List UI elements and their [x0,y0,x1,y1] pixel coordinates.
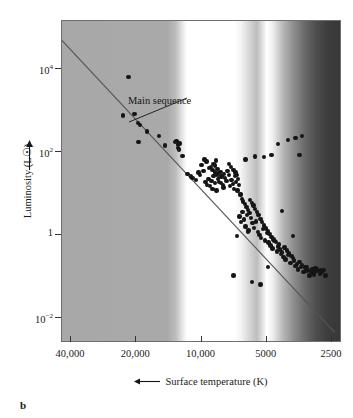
x-axis-tick-mark [266,336,267,342]
y-tick-exponent: 4 [50,63,54,71]
y-axis-tick-label: 1 [48,228,53,238]
y-axis-tick-label: 104 [39,62,53,76]
x-axis-tick-mark [135,336,136,342]
y-axis-title: Luminosity (L☉) [21,106,33,256]
x-axis-arrow-left [134,377,160,386]
y-axis-tick-mark [55,234,61,235]
y-axis-tick-label: 102 [39,145,53,159]
x-axis-tick-label: 40,000 [56,348,85,360]
y-axis-tick-mark [55,68,61,69]
y-tick-mantissa: 10 [39,64,50,75]
y-axis-title-text: Luminosity (L☉) [22,144,33,218]
x-axis-tick-label: 5000 [255,348,276,360]
y-tick-mantissa: 10 [39,147,50,158]
y-axis-tick-mark [55,317,61,318]
x-axis-tick-label: 2500 [321,348,342,360]
y-tick-mantissa: 10 [35,313,46,324]
main-sequence-annotation-label: Main sequence [128,95,191,106]
y-tick-exponent: −2 [46,312,53,320]
x-axis-tick-mark [70,336,71,342]
main-sequence-leader-line [61,20,341,342]
x-axis-tick-mark [201,336,202,342]
panel-letter: b [20,399,26,411]
y-axis-tick-mark [55,151,61,152]
x-axis-tick-label: 10,000 [186,348,215,360]
x-axis-tick-labels: 40,00020,00010,00050002500 [0,348,353,364]
x-axis-tick-mark [331,336,332,342]
x-axis-title-row: Surface temperature (K) [61,376,341,387]
y-tick-exponent: 2 [50,146,54,154]
y-axis-tick-label: 10−2 [35,311,53,325]
x-axis-tick-label: 20,000 [121,348,150,360]
hr-diagram-figure: Main sequence 104102110−2 Luminosity (L☉… [0,0,353,418]
x-axis-title: Surface temperature (K) [165,376,267,387]
